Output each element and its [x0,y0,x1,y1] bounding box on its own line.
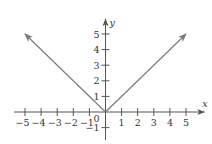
y-axis-label: y [109,17,116,28]
y-tick-label: 2 [93,75,99,86]
y-tick-label: 3 [93,60,99,71]
y-tick-label: 5 [93,29,99,40]
x-tick-label: −3 [48,117,62,128]
x-axis-label: x [202,98,208,109]
x-tick-label: −4 [32,117,46,128]
labels: −5−4−3−2−112345−1123450xy [15,17,208,133]
x-tick-label: 4 [167,117,173,128]
y-tick-label: 1 [93,91,99,102]
x-tick-label: 3 [151,117,157,128]
curve-right-ray [106,34,187,112]
y-tick-label: 4 [93,44,99,55]
x-tick-label: 2 [135,117,141,128]
absolute-value-graph: −5−4−3−2−112345−1123450xy [0,0,212,144]
x-tick-label: −5 [15,117,29,128]
x-tick-label: 1 [119,117,125,128]
origin-label: 0 [93,113,99,124]
x-tick-label: −2 [64,117,78,128]
x-tick-label: 5 [183,117,189,128]
